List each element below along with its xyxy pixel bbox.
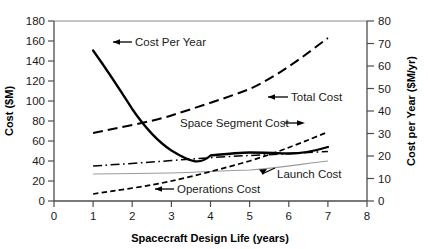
left-tick-60: 60 bbox=[32, 135, 45, 147]
right-tick-0: 0 bbox=[378, 195, 384, 207]
right-tick-30: 30 bbox=[378, 128, 391, 140]
annotation-space-segment-cost: Space Segment Cost bbox=[180, 117, 305, 129]
right-tick-10: 10 bbox=[378, 173, 391, 185]
left-tick-40: 40 bbox=[32, 155, 45, 167]
y-axis-left-title: Cost ($M) bbox=[3, 86, 15, 136]
left-tick-160: 160 bbox=[26, 35, 45, 47]
cost-vs-design-life-chart: 180 160 140 120 100 80 60 40 20 0 80 70 bbox=[0, 0, 428, 249]
annotation-operations-cost-label: Operations Cost bbox=[177, 183, 261, 195]
x-tick-5: 5 bbox=[246, 210, 252, 222]
right-tick-50: 50 bbox=[378, 83, 391, 95]
right-tick-80: 80 bbox=[378, 15, 391, 27]
left-tick-80: 80 bbox=[32, 115, 45, 127]
annotation-launch-cost-label: Launch Cost bbox=[277, 168, 342, 180]
x-tick-2: 2 bbox=[129, 210, 135, 222]
x-tick-6: 6 bbox=[286, 210, 292, 222]
x-tick-1: 1 bbox=[90, 210, 96, 222]
x-tick-0: 0 bbox=[51, 210, 57, 222]
left-tick-100: 100 bbox=[26, 95, 45, 107]
annotation-space-segment-cost-label: Space Segment Cost bbox=[180, 117, 289, 129]
right-tick-60: 60 bbox=[378, 60, 391, 72]
x-tick-7: 7 bbox=[325, 210, 331, 222]
chart-container: 180 160 140 120 100 80 60 40 20 0 80 70 bbox=[0, 0, 428, 249]
x-tick-4: 4 bbox=[207, 210, 214, 222]
y-axis-right-title: Cost per Year ($M/yr) bbox=[405, 56, 417, 166]
left-tick-140: 140 bbox=[26, 55, 45, 67]
right-axis-tick-labels: 80 70 60 50 40 30 20 10 0 bbox=[378, 15, 391, 207]
right-tick-70: 70 bbox=[378, 38, 391, 50]
right-tick-40: 40 bbox=[378, 105, 391, 117]
annotation-cost-per-year-label: Cost Per Year bbox=[135, 36, 206, 48]
annotation-total-cost-label: Total Cost bbox=[291, 91, 343, 103]
left-tick-120: 120 bbox=[26, 75, 45, 87]
left-tick-0: 0 bbox=[39, 195, 45, 207]
right-tick-20: 20 bbox=[378, 150, 391, 162]
left-tick-20: 20 bbox=[32, 175, 45, 187]
x-axis-title: Spacecraft Design Life (years) bbox=[131, 232, 289, 244]
x-tick-8: 8 bbox=[364, 210, 370, 222]
x-tick-3: 3 bbox=[168, 210, 174, 222]
left-tick-180: 180 bbox=[26, 15, 45, 27]
